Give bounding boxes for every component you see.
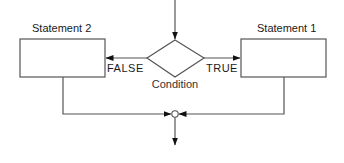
condition-label: Condition <box>151 79 199 90</box>
false-branch-label: FALSE <box>107 63 144 74</box>
statement-1-label: Statement 1 <box>257 23 316 34</box>
condition-diamond <box>147 40 204 77</box>
true-branch-label: TRUE <box>206 63 238 74</box>
flowchart-diagram: Statement 2 Statement 1 FALSE TRUE Condi… <box>0 0 344 163</box>
statement-2-label: Statement 2 <box>32 23 91 34</box>
junction-circle <box>172 111 178 117</box>
statement-1-box <box>241 39 326 77</box>
statement-2-box <box>20 39 105 77</box>
